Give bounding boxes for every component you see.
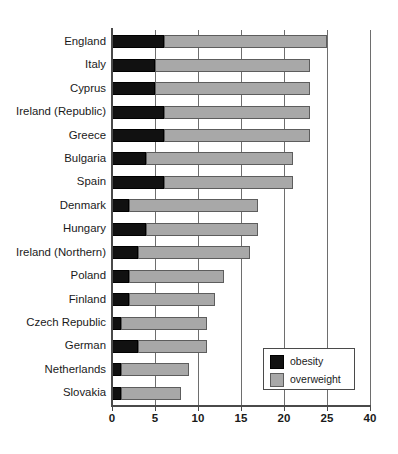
bar-segment-obesity bbox=[112, 270, 129, 283]
legend-label-overweight: overweight bbox=[290, 374, 341, 385]
bar-row bbox=[112, 340, 207, 353]
category-label: Hungary bbox=[0, 223, 106, 234]
category-label: Greece bbox=[0, 130, 106, 141]
category-label: Spain bbox=[0, 176, 106, 187]
x-tick-label: 0 bbox=[109, 412, 116, 424]
bar-segment-obesity bbox=[112, 223, 146, 236]
category-label: Denmark bbox=[0, 200, 106, 211]
legend-label-obesity: obesity bbox=[290, 356, 323, 367]
bar-segment-obesity bbox=[112, 129, 164, 142]
bar-row bbox=[112, 152, 293, 165]
bar-segment-overweight bbox=[146, 152, 292, 165]
bar-segment-obesity bbox=[112, 363, 121, 376]
bar-row bbox=[112, 317, 207, 330]
bar-segment-overweight bbox=[164, 176, 293, 189]
bar-segment-obesity bbox=[112, 246, 138, 259]
bar-segment-overweight bbox=[155, 82, 310, 95]
bar-segment-overweight bbox=[164, 35, 327, 48]
bar-segment-overweight bbox=[129, 293, 215, 306]
bar-segment-overweight bbox=[164, 129, 310, 142]
x-tick bbox=[370, 405, 371, 411]
bar-segment-obesity bbox=[112, 293, 129, 306]
category-label: Bulgaria bbox=[0, 153, 106, 164]
category-label: Italy bbox=[0, 59, 106, 70]
legend-swatch-overweight-icon bbox=[270, 373, 284, 387]
bar-segment-obesity bbox=[112, 59, 155, 72]
bar-segment-overweight bbox=[155, 59, 310, 72]
bar-segment-obesity bbox=[112, 340, 138, 353]
x-tick bbox=[112, 405, 113, 411]
x-tick-label: 5 bbox=[152, 412, 159, 424]
bar-segment-overweight bbox=[138, 246, 250, 259]
legend-item-obesity: obesity bbox=[270, 354, 323, 369]
x-tick-label: 10 bbox=[191, 412, 204, 424]
bar-segment-obesity bbox=[112, 387, 121, 400]
gridline-40 bbox=[370, 30, 371, 405]
x-tick bbox=[327, 405, 328, 411]
x-tick-label: 20 bbox=[277, 412, 290, 424]
x-tick-label: 40 bbox=[363, 412, 376, 424]
bar-segment-overweight bbox=[129, 199, 258, 212]
bar-segment-obesity bbox=[112, 82, 155, 95]
category-label: England bbox=[0, 36, 106, 47]
category-label: Slovakia bbox=[0, 387, 106, 398]
legend-item-overweight: overweight bbox=[270, 372, 341, 387]
bar-row bbox=[112, 363, 189, 376]
bar-row bbox=[112, 199, 258, 212]
bar-row bbox=[112, 129, 310, 142]
chart-legend: obesity overweight bbox=[263, 348, 355, 390]
bar-segment-overweight bbox=[121, 387, 181, 400]
category-label: Poland bbox=[0, 270, 106, 281]
bar-row bbox=[112, 106, 310, 119]
bar-segment-overweight bbox=[138, 340, 207, 353]
bar-segment-overweight bbox=[146, 223, 258, 236]
category-label: Czech Republic bbox=[0, 317, 106, 328]
bar-segment-obesity bbox=[112, 199, 129, 212]
bar-segment-obesity bbox=[112, 35, 164, 48]
bar-row bbox=[112, 35, 327, 48]
bar-row bbox=[112, 387, 181, 400]
legend-swatch-obesity-icon bbox=[270, 355, 284, 369]
bar-row bbox=[112, 246, 250, 259]
category-label: Ireland (Northern) bbox=[0, 247, 106, 258]
x-tick bbox=[241, 405, 242, 411]
bar-segment-obesity bbox=[112, 317, 121, 330]
x-tick-label: 25 bbox=[320, 412, 333, 424]
x-tick bbox=[284, 405, 285, 411]
bar-row bbox=[112, 176, 293, 189]
bar-row bbox=[112, 59, 310, 72]
category-label: Ireland (Republic) bbox=[0, 106, 106, 117]
bar-segment-obesity bbox=[112, 106, 164, 119]
bar-segment-overweight bbox=[121, 317, 207, 330]
x-tick bbox=[198, 405, 199, 411]
x-tick-label: 15 bbox=[234, 412, 247, 424]
y-axis-line bbox=[111, 28, 113, 407]
category-label: Netherlands bbox=[0, 364, 106, 375]
bar-segment-obesity bbox=[112, 152, 146, 165]
bar-row bbox=[112, 223, 258, 236]
category-label: Finland bbox=[0, 294, 106, 305]
bar-segment-overweight bbox=[164, 106, 310, 119]
bar-row bbox=[112, 270, 224, 283]
category-label: German bbox=[0, 340, 106, 351]
bar-segment-overweight bbox=[129, 270, 224, 283]
category-label: Cyprus bbox=[0, 83, 106, 94]
x-tick bbox=[155, 405, 156, 411]
chart-container: EnglandItalyCyprusIreland (Republic)Gree… bbox=[0, 0, 398, 454]
bar-segment-overweight bbox=[121, 363, 190, 376]
bar-segment-obesity bbox=[112, 176, 164, 189]
bar-row bbox=[112, 82, 310, 95]
bar-row bbox=[112, 293, 215, 306]
